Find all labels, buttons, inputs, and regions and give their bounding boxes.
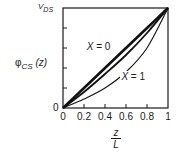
x-tick-label: 0.8 bbox=[137, 111, 157, 122]
chart-plot bbox=[0, 0, 180, 163]
curve-annotation: X = 1 bbox=[120, 71, 146, 82]
curve-annotation: X = 0 bbox=[86, 41, 112, 52]
x-tick-label: 0 bbox=[53, 111, 73, 122]
curve-x-0 bbox=[63, 8, 168, 108]
x-tick-label: 1 bbox=[158, 111, 178, 122]
y-top-label: VDS bbox=[38, 2, 53, 13]
curves bbox=[63, 8, 168, 108]
x-tick-label: 0.2 bbox=[74, 111, 94, 122]
x-axis-label: z L bbox=[106, 127, 126, 150]
x-tick-label: 0.4 bbox=[95, 111, 115, 122]
x-tick-label: 0.6 bbox=[116, 111, 136, 122]
y-axis-label: φCS (z) bbox=[15, 57, 47, 71]
